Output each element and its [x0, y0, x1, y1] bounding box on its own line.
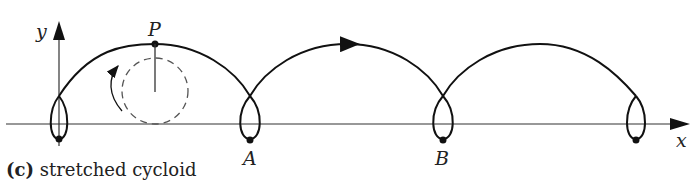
point-origin-dot [56, 136, 63, 143]
point-a-dot [247, 137, 254, 144]
point-p-label: P [148, 20, 161, 39]
point-end-dot [633, 137, 640, 144]
stretched-cycloid-figure: y P A B x (c) stretched cycloid [0, 0, 699, 185]
caption-tag: (c) [6, 159, 34, 180]
y-axis-label: y [36, 22, 47, 41]
point-b-label: B [435, 149, 449, 168]
point-a-label: A [243, 149, 257, 168]
x-axis-label: x [676, 131, 687, 150]
y-axis-arrow-icon [53, 21, 65, 40]
cycloid-curve [51, 44, 645, 139]
rotation-arrow-icon [111, 66, 122, 111]
cycloid-diagram [0, 0, 699, 185]
caption-text: stretched cycloid [40, 159, 197, 180]
figure-caption: (c) stretched cycloid [6, 161, 196, 179]
point-b-dot [440, 137, 447, 144]
